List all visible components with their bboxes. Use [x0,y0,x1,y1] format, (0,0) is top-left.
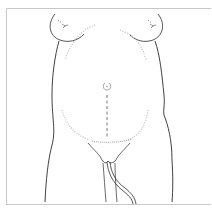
left-groin-line [88,143,102,160]
left-nipple-icon [58,20,68,28]
suprapubic-stipple [92,139,132,142]
umbilicus-icon [103,83,110,90]
right-torso-contour [155,41,173,202]
perineum [102,160,116,163]
torso-illustration [0,0,211,208]
frame [7,9,212,206]
right-breast [130,14,163,41]
catheter-tube-inner [110,162,136,204]
right-groin-line [116,143,130,160]
illustration-canvas [0,0,211,208]
right-inner-thigh [115,163,117,202]
left-inner-thigh [103,163,106,202]
left-breast [50,14,84,41]
uterus-fundus-outline [62,25,148,140]
left-torso-contour [45,41,59,202]
right-nipple-icon [148,20,156,28]
